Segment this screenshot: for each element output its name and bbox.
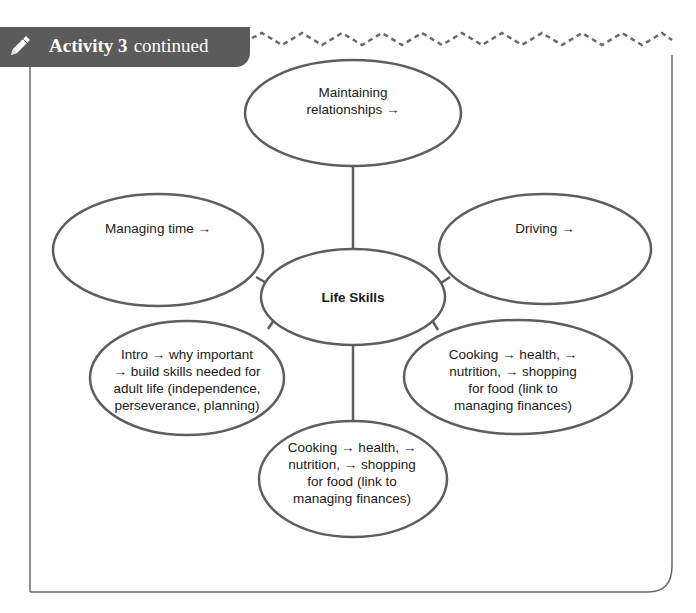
- node-top-label: Maintaining relationships →: [306, 84, 399, 118]
- node-center-label: Life Skills: [321, 289, 384, 306]
- node-text-line: Driving →: [515, 220, 574, 237]
- node-text-line: adult life (independence,: [113, 380, 260, 397]
- zigzag-border: [252, 33, 672, 45]
- node-bottom-left-label: Intro → why important → build skills nee…: [113, 346, 260, 414]
- node-text-line: nutrition, → shopping: [288, 456, 416, 473]
- center-topic-text: Life Skills: [321, 289, 384, 306]
- node-text-line: Cooking → health, →: [288, 439, 416, 456]
- node-text-line: relationships →: [306, 101, 399, 118]
- node-text-line: managing finances): [288, 490, 416, 507]
- node-bottom-label: Cooking → health, → nutrition, → shoppin…: [288, 439, 416, 507]
- node-right-label: Driving →: [515, 220, 574, 237]
- node-left-shape: [53, 194, 263, 306]
- node-text-line: Cooking → health, →: [449, 346, 577, 363]
- node-right-shape: [439, 194, 651, 304]
- node-text-line: Maintaining: [306, 84, 399, 101]
- node-left-label: Managing time →: [105, 220, 211, 237]
- node-text-line: managing finances): [449, 397, 577, 414]
- node-bottom-right-label: Cooking → health, → nutrition, → shoppin…: [449, 346, 577, 414]
- node-text-line: for food (link to: [288, 473, 416, 490]
- node-text-line: Managing time →: [105, 220, 211, 237]
- node-text-line: nutrition, → shopping: [449, 363, 577, 380]
- node-text-line: Intro → why important: [113, 346, 260, 363]
- node-text-line: → build skills needed for: [113, 363, 260, 380]
- node-text-line: for food (link to: [449, 380, 577, 397]
- node-text-line: perseverance, planning): [113, 397, 260, 414]
